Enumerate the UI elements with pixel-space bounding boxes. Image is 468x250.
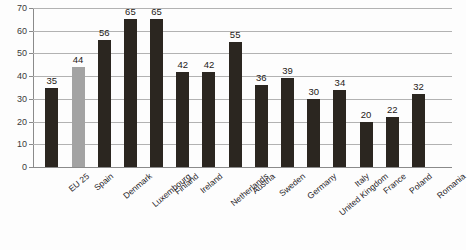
bar-value-label: 34 bbox=[325, 78, 355, 88]
bar-value-label: 65 bbox=[142, 7, 172, 17]
y-axis-tick-label: 60 bbox=[1, 27, 27, 36]
bar bbox=[281, 78, 294, 167]
x-axis-label-text: Spain bbox=[92, 171, 115, 193]
bar-value-label: 22 bbox=[377, 105, 407, 115]
gridline bbox=[33, 8, 452, 9]
x-axis-category-labels: EU 25SpainDenmarkLuxembourgFinlandIrelan… bbox=[33, 169, 452, 250]
x-axis-label-text: Denmark bbox=[121, 171, 154, 201]
y-axis-tick-mark bbox=[29, 144, 33, 145]
x-axis-label-text: Germany bbox=[305, 171, 338, 201]
bar bbox=[124, 19, 137, 167]
gridline bbox=[33, 167, 452, 168]
y-axis-tick-label: 50 bbox=[1, 49, 27, 58]
bar bbox=[98, 40, 111, 167]
y-axis-tick-labels: 010203040506070 bbox=[0, 0, 27, 250]
bar bbox=[307, 99, 320, 167]
y-axis-tick-mark bbox=[29, 8, 33, 9]
y-axis-tick-mark bbox=[29, 122, 33, 123]
x-axis-label: EU 25 bbox=[66, 171, 91, 194]
bar bbox=[229, 42, 242, 167]
bar-value-label: 39 bbox=[273, 66, 303, 76]
x-axis-label-text: Romania bbox=[435, 171, 467, 201]
x-axis-label: Ireland bbox=[198, 171, 224, 195]
x-axis-label: Poland bbox=[407, 171, 434, 196]
x-axis-label-text: Poland bbox=[407, 171, 434, 196]
x-axis-label-text: Sweden bbox=[278, 171, 308, 198]
bar bbox=[412, 94, 425, 167]
bar-value-label: 42 bbox=[194, 60, 224, 70]
bar bbox=[150, 19, 163, 167]
x-axis-label-text: EU 25 bbox=[66, 171, 91, 194]
x-axis-label: Germany bbox=[305, 171, 338, 201]
bar bbox=[386, 117, 399, 167]
y-axis-tick-mark bbox=[29, 99, 33, 100]
y-axis-tick-label: 30 bbox=[1, 95, 27, 104]
x-axis-label: Denmark bbox=[121, 171, 154, 201]
bar-value-label: 56 bbox=[89, 28, 119, 38]
x-axis-label: Spain bbox=[92, 171, 115, 193]
x-axis-label-text: Ireland bbox=[198, 171, 224, 195]
bar-value-label: 30 bbox=[299, 87, 329, 97]
y-axis-tick-label: 40 bbox=[1, 72, 27, 81]
bar-value-label: 55 bbox=[220, 30, 250, 40]
y-axis-tick-label: 20 bbox=[1, 118, 27, 127]
y-axis-tick-mark bbox=[29, 76, 33, 77]
gridline bbox=[33, 53, 452, 54]
x-axis-label: Sweden bbox=[278, 171, 308, 198]
y-axis-tick-mark bbox=[29, 167, 33, 168]
x-axis-label: Romania bbox=[435, 171, 467, 201]
bar bbox=[333, 90, 346, 167]
bar bbox=[255, 85, 268, 167]
y-axis-tick-mark bbox=[29, 53, 33, 54]
bar bbox=[72, 67, 85, 167]
bar-value-label: 35 bbox=[37, 76, 67, 86]
gridline bbox=[33, 76, 452, 77]
gridline bbox=[33, 99, 452, 100]
y-axis-tick-label: 0 bbox=[1, 163, 27, 172]
y-axis-tick-label: 10 bbox=[1, 140, 27, 149]
y-axis-tick-mark bbox=[29, 31, 33, 32]
bar-value-label: 44 bbox=[63, 55, 93, 65]
bar bbox=[360, 122, 373, 167]
bar bbox=[176, 72, 189, 167]
bar-value-label: 32 bbox=[403, 82, 433, 92]
bar bbox=[202, 72, 215, 167]
y-axis-tick-label: 70 bbox=[1, 4, 27, 13]
bar bbox=[45, 88, 58, 168]
